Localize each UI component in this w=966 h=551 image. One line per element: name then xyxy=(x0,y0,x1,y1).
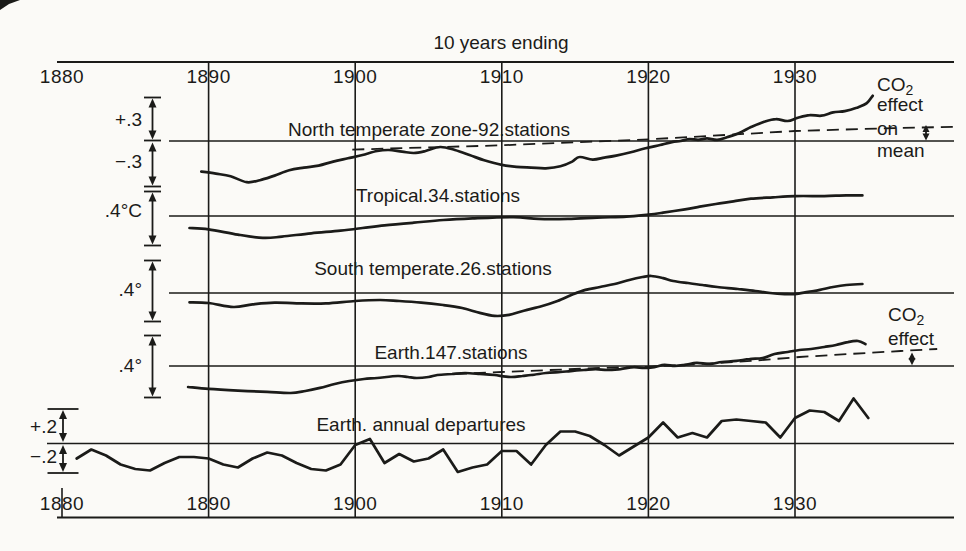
scale-arrow-minus3 xyxy=(144,143,161,187)
co2-mean-line-4: mean xyxy=(877,140,925,161)
top-axis-title: 10 years ending xyxy=(433,32,568,53)
bottom-year-1920: 1920 xyxy=(626,493,670,514)
panel-title-south-temperate: South temperate.26.stations xyxy=(314,258,552,279)
scale-arrow-minus3-head-up xyxy=(149,143,157,152)
scale-label-point4c: .4°C xyxy=(105,200,142,221)
co2-offset-arrow-earth xyxy=(909,353,916,366)
scale-label-plus2: +.2 xyxy=(30,416,57,437)
figure-canvas: 10 years ending 1880 1890 1900 1910 1920… xyxy=(0,0,966,551)
scale-arrow-point4-earth-head-down xyxy=(149,388,157,397)
top-year-1930: 1930 xyxy=(773,66,817,87)
scale-arrow-minus2-head-up xyxy=(59,445,67,454)
scale-arrow-point4-south-head-down xyxy=(149,312,157,321)
bottom-year-1880: 1880 xyxy=(40,493,84,514)
scale-label-minus2: −.2 xyxy=(30,446,57,467)
top-year-1920: 1920 xyxy=(626,66,670,87)
panel-title-north-temperate: North temperate zone-92.stations xyxy=(288,119,570,140)
scale-arrow-plus2-head-down xyxy=(59,433,67,442)
bottom-year-1910: 1910 xyxy=(480,493,524,514)
bottom-year-1890: 1890 xyxy=(186,493,230,514)
scale-label-point4-earth: .4° xyxy=(119,355,142,376)
curve-south_temperate xyxy=(190,276,863,316)
scale-arrow-plus3-head-up xyxy=(149,99,157,108)
scanned-figure-page: 10 years ending 1880 1890 1900 1910 1920… xyxy=(0,0,966,551)
co2-effect-line-2: effect xyxy=(888,328,935,349)
top-year-1890: 1890 xyxy=(186,66,230,87)
co2-mean-line-3: on xyxy=(877,118,898,139)
bottom-year-1900: 1900 xyxy=(333,493,377,514)
scale-arrow-point4-earth xyxy=(144,336,161,398)
scale-arrow-point4-south xyxy=(144,261,161,322)
scale-arrow-point4c xyxy=(144,192,161,246)
panel-title-earth-annual: Earth. annual departures xyxy=(316,414,525,435)
scale-arrow-point4c-head-down xyxy=(149,236,157,245)
top-year-1900: 1900 xyxy=(333,66,377,87)
scan-corner-artifact xyxy=(0,0,20,10)
scale-label-plus3: +.3 xyxy=(115,109,142,130)
scale-arrow-point4c-head-up xyxy=(149,193,157,202)
panel-title-tropical: Tropical.34.stations xyxy=(356,185,520,206)
scale-arrow-minus2-head-down xyxy=(59,463,67,472)
scale-arrows xyxy=(48,98,162,474)
scale-arrow-minus3-head-down xyxy=(149,177,157,186)
scale-label-point4-south: .4° xyxy=(119,279,142,300)
top-year-1910: 1910 xyxy=(480,66,524,87)
curve-earth_annual xyxy=(77,399,869,473)
scale-arrow-point4-earth-head-up xyxy=(149,337,157,346)
panel-title-earth: Earth.147.stations xyxy=(374,342,527,363)
scale-arrow-plus3 xyxy=(144,98,161,141)
top-year-1880: 1880 xyxy=(40,66,84,87)
co2-effect-line-1: CO2 xyxy=(888,304,925,328)
scale-arrow-plus3-head-down xyxy=(149,131,157,140)
scale-label-minus3: −.3 xyxy=(115,151,142,172)
scale-arrow-point4-south-head-up xyxy=(149,262,157,271)
bottom-year-1930: 1930 xyxy=(773,493,817,514)
co2-mean-line-2: effect xyxy=(877,94,924,115)
scale-arrow-plus2-head-up xyxy=(59,410,67,419)
